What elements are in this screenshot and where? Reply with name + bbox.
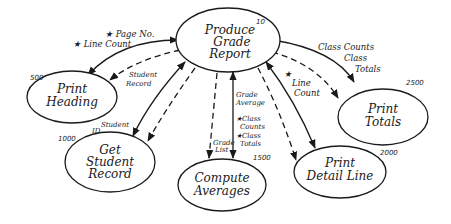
node-label: Detail Line (306, 169, 374, 183)
node-number: 1000 (58, 135, 76, 143)
node-label: Compute (194, 171, 249, 185)
node-print-detail-line: Print Detail Line 2000 (294, 146, 398, 198)
edge-produce-detail-data (258, 68, 296, 160)
node-label: Print (56, 82, 87, 96)
node-label: Print (324, 156, 355, 170)
node-label: Report (208, 47, 251, 61)
label-student-record: Student (129, 71, 157, 79)
node-produce-grade-report: Produce Grade Report 10 (176, 8, 280, 72)
node-get-student-record: Get Student Record 1000 (58, 132, 155, 192)
label-grade-list: List (214, 146, 228, 154)
label-class-counts-totals: Totals (355, 64, 381, 74)
node-number: 2000 (380, 149, 398, 157)
node-compute-averages: Compute Averages 1500 (178, 154, 271, 211)
label-class-counts: ★Class (236, 115, 261, 123)
node-number: 10 (256, 18, 265, 26)
node-label: Averages (193, 184, 250, 198)
label-line-count-right: Line (291, 78, 311, 88)
structure-chart: Produce Grade Report 10 Print Heading 50… (0, 0, 451, 224)
node-label: Record (87, 167, 132, 181)
node-number: 2500 (406, 79, 424, 87)
node-label: Heading (45, 95, 98, 109)
label-grade-average: Grade (236, 91, 258, 99)
node-label: Print (367, 102, 398, 116)
node-print-heading: Print Heading 500 (27, 71, 117, 123)
label-class-counts-totals: Class Counts (318, 42, 375, 52)
node-print-totals: Print Totals 2500 (338, 79, 428, 145)
label-class-counts-totals: Class (344, 53, 368, 63)
label-class-totals: Totals (240, 140, 262, 148)
label-page-no: ★ Page No. (105, 29, 154, 39)
node-number: 1500 (253, 154, 271, 162)
label-class-counts: Counts (240, 123, 265, 131)
node-label: Totals (365, 115, 401, 129)
label-student-id: ID (91, 127, 101, 135)
label-student-id: Student (101, 121, 129, 129)
label-line-count-left: ★ Line Count (73, 39, 132, 49)
label-class-totals: ★Class (236, 132, 261, 140)
node-number: 500 (30, 74, 44, 82)
label-student-record: Record (125, 80, 152, 88)
label-grade-average: Average (235, 99, 265, 107)
label-line-count-right: Count (294, 88, 321, 98)
